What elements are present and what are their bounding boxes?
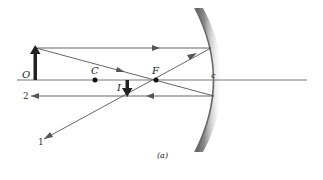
ray-2 [31, 48, 214, 99]
center-label: C [91, 65, 99, 76]
image-arrow [122, 80, 133, 97]
ray-1-label: 1 [38, 137, 44, 147]
image-label: I [116, 82, 122, 93]
ray-1 [36, 45, 211, 139]
figure-caption: (a) [157, 151, 168, 160]
vertex-label: c [211, 71, 216, 80]
focal-point [154, 78, 159, 83]
center-of-curvature-point [93, 78, 98, 83]
ray-2-label: 2 [23, 91, 29, 101]
focal-label: F [151, 65, 160, 76]
object-label: O [22, 69, 30, 80]
concave-mirror-ray-diagram: O C F c I 2 1 (a) [0, 0, 323, 180]
object-arrow [30, 45, 41, 80]
